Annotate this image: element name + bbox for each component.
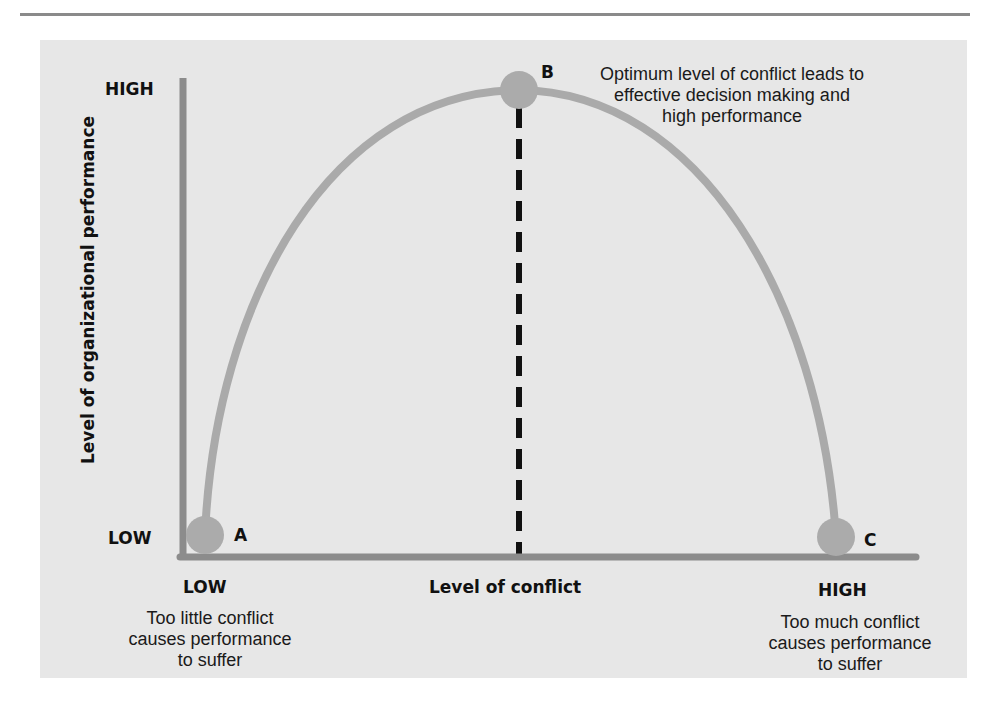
too-much-annotation: Too much conflict causes performance to … — [750, 612, 950, 675]
x-axis-low-label: LOW — [183, 577, 226, 597]
y-axis-low-label: LOW — [108, 528, 151, 548]
point-a-marker — [186, 516, 224, 554]
point-b-label: B — [541, 62, 554, 82]
optimum-line-2: effective decision making and — [572, 85, 892, 106]
point-c-marker — [817, 518, 855, 556]
too-little-line-2: causes performance — [110, 629, 310, 650]
too-much-line-2: causes performance — [750, 633, 950, 654]
too-much-line-1: Too much conflict — [750, 612, 950, 633]
point-c-label: C — [864, 530, 876, 550]
optimum-line-3: high performance — [572, 106, 892, 127]
y-axis-label: Level of organizational performance — [78, 110, 98, 470]
y-axis-high-label: HIGH — [105, 79, 154, 99]
point-a-label: A — [234, 525, 247, 545]
too-little-line-1: Too little conflict — [110, 608, 310, 629]
point-b-marker — [500, 71, 538, 109]
too-little-line-3: to suffer — [110, 650, 310, 671]
optimum-annotation: Optimum level of conflict leads to effec… — [572, 64, 892, 127]
x-axis-high-label: HIGH — [818, 580, 867, 600]
optimum-line-1: Optimum level of conflict leads to — [572, 64, 892, 85]
too-much-line-3: to suffer — [750, 654, 950, 675]
too-little-annotation: Too little conflict causes performance t… — [110, 608, 310, 671]
x-axis-label: Level of conflict — [429, 577, 581, 597]
